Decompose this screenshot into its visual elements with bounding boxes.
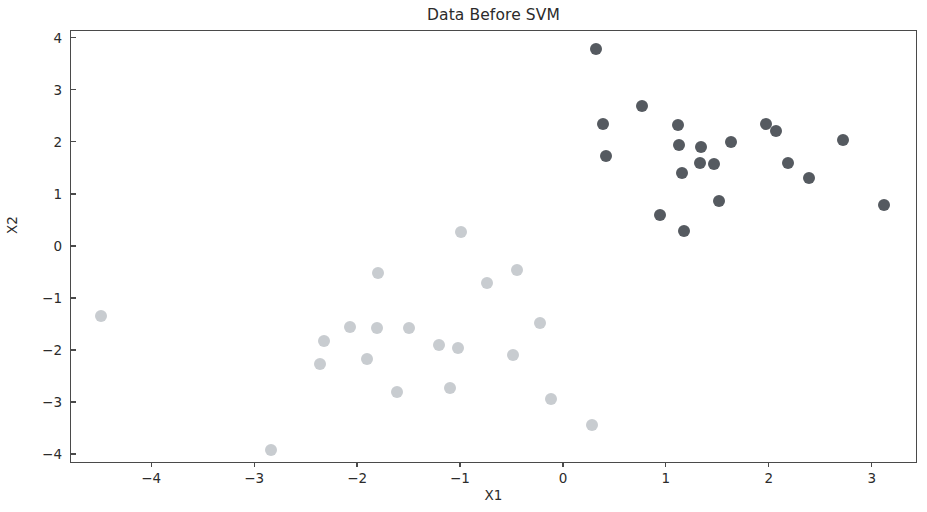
data-point (694, 157, 706, 169)
x-tick-mark (459, 462, 460, 467)
figure-canvas: Data Before SVM X2 −4−3−2−101234 −4−3−2−… (0, 0, 927, 512)
y-tick-label: −2 (42, 341, 62, 359)
x-axis-label: X1 (70, 487, 917, 503)
y-axis-label: X2 (4, 216, 20, 234)
y-tick-label: 4 (53, 29, 62, 47)
y-tick-label: −4 (42, 445, 62, 463)
x-tick-label: −1 (440, 469, 480, 487)
x-tick-label: 3 (852, 469, 892, 487)
data-point (455, 226, 467, 238)
y-tick-mark (71, 453, 76, 454)
x-tick-label: −4 (131, 469, 171, 487)
data-point (837, 134, 849, 146)
data-point (511, 264, 523, 276)
plot-area: −4−3−2−101234 −4−3−2−10123 (70, 30, 917, 463)
data-point (673, 139, 685, 151)
y-tick-mark (71, 245, 76, 246)
data-point (371, 322, 383, 334)
data-point (586, 419, 598, 431)
data-point (725, 136, 737, 148)
y-tick-mark (71, 349, 76, 350)
y-tick-label: 1 (53, 185, 62, 203)
y-tick-mark (71, 193, 76, 194)
y-tick-label: 2 (53, 133, 62, 151)
data-point (372, 267, 384, 279)
y-tick-mark (71, 89, 76, 90)
data-point (672, 119, 684, 131)
x-tick-mark (871, 462, 872, 467)
data-point (545, 393, 557, 405)
data-point (433, 339, 445, 351)
x-tick-mark (151, 462, 152, 467)
x-tick-mark (254, 462, 255, 467)
data-point (444, 382, 456, 394)
x-tick-mark (356, 462, 357, 467)
x-tick-label: 1 (646, 469, 686, 487)
data-point (654, 209, 666, 221)
data-point (713, 195, 725, 207)
data-point (452, 342, 464, 354)
data-point (265, 444, 277, 456)
data-point (590, 43, 602, 55)
y-tick-mark (71, 297, 76, 298)
y-tick-label: 0 (53, 237, 62, 255)
x-tick-mark (665, 462, 666, 467)
data-point (344, 321, 356, 333)
data-point (391, 386, 403, 398)
data-point (708, 158, 720, 170)
y-tick-mark (71, 37, 76, 38)
data-point (597, 118, 609, 130)
data-point (695, 141, 707, 153)
data-point (782, 157, 794, 169)
x-tick-mark (768, 462, 769, 467)
data-point (403, 322, 415, 334)
x-tick-label: −3 (234, 469, 274, 487)
x-tick-label: 0 (543, 469, 583, 487)
y-tick-mark (71, 141, 76, 142)
page-title: Data Before SVM (70, 6, 917, 24)
data-point (314, 358, 326, 370)
data-point (534, 317, 546, 329)
data-point (678, 225, 690, 237)
data-point (636, 100, 648, 112)
scatter-points-layer (71, 31, 916, 462)
data-point (95, 310, 107, 322)
data-point (878, 199, 890, 211)
y-tick-label: 3 (53, 81, 62, 99)
data-point (361, 353, 373, 365)
data-point (507, 349, 519, 361)
x-tick-label: −2 (337, 469, 377, 487)
data-point (318, 335, 330, 347)
data-point (803, 172, 815, 184)
y-tick-label: −3 (42, 393, 62, 411)
data-point (676, 167, 688, 179)
x-tick-label: 2 (749, 469, 789, 487)
x-tick-mark (562, 462, 563, 467)
data-point (600, 150, 612, 162)
data-point (481, 277, 493, 289)
data-point (770, 125, 782, 137)
y-tick-mark (71, 401, 76, 402)
y-tick-label: −1 (42, 289, 62, 307)
